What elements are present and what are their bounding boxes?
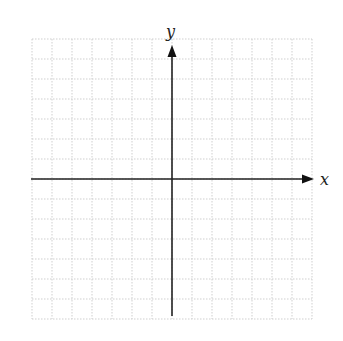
coordinate-plane: x y xyxy=(0,0,343,341)
x-axis-label: x xyxy=(320,170,329,189)
y-axis-arrow-icon xyxy=(168,45,177,57)
y-axis-label: y xyxy=(165,22,176,41)
x-axis-arrow-icon xyxy=(302,175,314,184)
